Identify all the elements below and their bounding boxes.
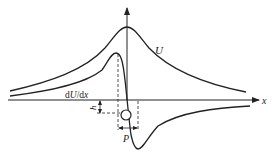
label-U: U bbox=[155, 44, 164, 56]
label-P: P bbox=[122, 133, 129, 144]
derivative-curve-dUdx bbox=[10, 53, 250, 149]
label-h: h bbox=[88, 105, 98, 110]
diagram-canvas: U dU/dx x h P bbox=[0, 0, 272, 158]
label-dUdx: dU/dx bbox=[65, 90, 89, 100]
label-x-axis: x bbox=[261, 95, 267, 106]
particle-circle bbox=[121, 110, 131, 120]
potential-curve-U bbox=[10, 27, 246, 92]
